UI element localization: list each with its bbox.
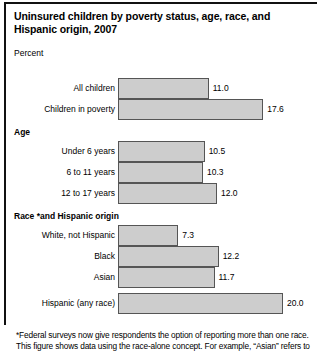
bar — [118, 162, 203, 183]
bar-value-label: 10.3 — [207, 167, 224, 177]
chart-footnote: *Federal surveys now give respondents th… — [16, 330, 310, 351]
bar-row: White, not Hispanic7.3 — [0, 225, 317, 246]
bar — [118, 183, 217, 204]
bar-row: Asian11.7 — [0, 267, 317, 288]
chart-title: Uninsured children by poverty status, ag… — [14, 10, 306, 36]
bar-category-label: Asian — [94, 272, 115, 282]
bar-row: Under 6 years10.5 — [0, 141, 317, 162]
bar-category-label: Black — [94, 251, 115, 261]
bar — [118, 293, 283, 314]
bar — [118, 99, 263, 120]
axis-unit-label: Percent — [14, 48, 43, 58]
bar-category-label: Hispanic (any race) — [42, 298, 115, 308]
bar-category-label: Children in poverty — [44, 104, 115, 114]
bar-row: Hispanic (any race)20.0 — [0, 293, 317, 314]
group-heading-race: Race *and Hispanic origin — [14, 211, 119, 221]
bar-row: Children in poverty17.6 — [0, 99, 317, 120]
bar-value-label: 17.6 — [267, 104, 284, 114]
bar-value-label: 7.3 — [182, 230, 194, 240]
bar-row: All children11.0 — [0, 78, 317, 99]
chart-figure: Uninsured children by poverty status, ag… — [0, 0, 317, 358]
bar-row: 6 to 11 years10.3 — [0, 162, 317, 183]
bar-value-label: 11.0 — [213, 83, 229, 93]
bar — [118, 246, 219, 267]
bar — [118, 267, 215, 288]
bar-value-label: 20.0 — [287, 298, 304, 308]
bar-value-label: 11.7 — [219, 272, 235, 282]
group-heading-age: Age — [14, 127, 30, 137]
bar-value-label: 10.5 — [209, 146, 226, 156]
bar-category-label: 6 to 11 years — [66, 167, 115, 177]
bar-value-label: 12.2 — [223, 251, 240, 261]
bar-category-label: White, not Hispanic — [42, 230, 115, 240]
bar — [118, 225, 178, 246]
bar-category-label: Under 6 years — [62, 146, 115, 156]
bar-value-label: 12.0 — [221, 188, 238, 198]
bar-row: Black12.2 — [0, 246, 317, 267]
bar-category-label: 12 to 17 years — [61, 188, 115, 198]
bar — [118, 141, 205, 162]
bar-row: 12 to 17 years12.0 — [0, 183, 317, 204]
bar-category-label: All children — [73, 83, 115, 93]
top-divider — [4, 2, 317, 4]
bar — [118, 78, 209, 99]
